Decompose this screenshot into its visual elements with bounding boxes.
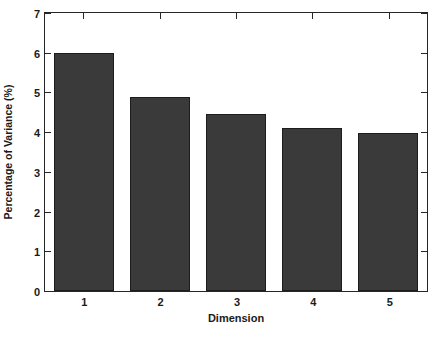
bar-slot (122, 13, 198, 291)
bar-slot (274, 13, 350, 291)
x-tick-label-5: 5 (387, 296, 393, 308)
x-tick-label-2: 2 (158, 296, 164, 308)
y-tick-label-7: 7 (34, 8, 40, 20)
bar-slot (198, 13, 274, 291)
y-tick-right-0 (421, 291, 427, 292)
y-tick-label-2: 2 (34, 207, 40, 219)
y-axis-title: Percentage of Variance (%) (2, 85, 14, 220)
bar-dimension-1 (54, 53, 115, 291)
bar-series (45, 13, 427, 291)
y-tick-label-0: 0 (34, 286, 40, 298)
y-tick-label-1: 1 (34, 246, 40, 258)
x-tick-label-3: 3 (234, 296, 240, 308)
plot-area: 01234567 12345 (44, 12, 428, 292)
bar-dimension-3 (206, 114, 267, 291)
y-tick-label-3: 3 (34, 167, 40, 179)
bar-slot (46, 13, 122, 291)
x-tick-label-1: 1 (81, 296, 87, 308)
y-tick-label-6: 6 (34, 48, 40, 60)
x-tick-label-4: 4 (310, 296, 316, 308)
y-tick-label-5: 5 (34, 87, 40, 99)
bar-chart-figure: 01234567 12345 Dimension Percentage of V… (0, 0, 441, 340)
bar-dimension-5 (358, 133, 419, 291)
bar-dimension-2 (130, 97, 191, 291)
y-tick-0: 0 (45, 291, 51, 292)
bar-dimension-4 (282, 128, 343, 291)
x-axis-title: Dimension (44, 312, 428, 324)
bar-slot (350, 13, 426, 291)
y-tick-label-4: 4 (34, 127, 40, 139)
